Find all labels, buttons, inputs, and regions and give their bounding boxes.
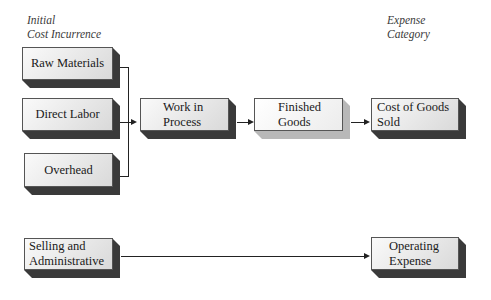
opex-line2: Expense <box>389 254 439 269</box>
header-expense-category: Expense Category <box>387 13 430 41</box>
arrow-to-operating-expense-icon <box>364 253 370 259</box>
wip-line2: Process <box>163 115 203 130</box>
fg-line2: Goods <box>278 115 321 130</box>
node-cogs-label: Cost of Goods Sold <box>371 98 459 131</box>
arrow-to-work-in-process-icon <box>131 119 137 125</box>
node-opex-label: Operating Expense <box>371 237 459 270</box>
fg-line1: Finished <box>278 100 321 115</box>
edge-sga-to-operating-expense <box>121 256 365 257</box>
header-left-line2: Cost Incurrence <box>27 27 101 41</box>
opex-line1: Operating <box>389 239 439 254</box>
node-finished-goods-label: Finished Goods <box>254 98 343 131</box>
sga-line2: Administrative <box>29 254 104 269</box>
node-work-in-process-label: Work in Process <box>140 98 229 131</box>
sga-line1: Selling and <box>29 239 104 254</box>
arrow-to-cogs-icon <box>364 119 370 125</box>
header-right-line2: Category <box>387 27 430 41</box>
cogs-line1: Cost of Goods <box>377 100 449 115</box>
header-left-line1: Initial <box>27 13 101 27</box>
header-initial-cost-incurrence: Initial Cost Incurrence <box>27 13 101 41</box>
header-right-line1: Expense <box>387 13 430 27</box>
node-sga-label: Selling and Administrative <box>24 238 113 270</box>
wip-line1: Work in <box>163 100 203 115</box>
node-raw-materials-label: Raw Materials <box>22 47 113 80</box>
node-direct-labor-label: Direct Labor <box>22 98 113 131</box>
node-overhead-label: Overhead <box>24 153 113 187</box>
cogs-line2: Sold <box>377 115 449 130</box>
